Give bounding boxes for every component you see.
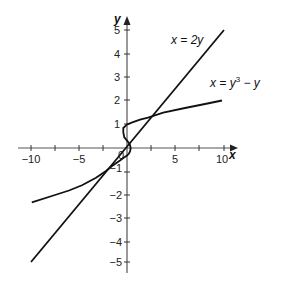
y-tick-label: 2 [114,94,120,106]
y-tick-label: −2 [109,189,122,201]
y-axis-label: y [113,12,122,26]
y-tick-label: −5 [109,256,122,268]
y-tick-label: 1 [114,118,120,130]
y-tick-label: 4 [114,48,120,60]
y-axis-arrow-icon [124,16,131,25]
x-tick-label: 10 [216,153,228,165]
y-axis: 5 4 3 2 1 −1 −2 −3 −4 −5 y 0 [109,12,130,273]
chart-svg: −10 −5 5 10 x 5 4 3 2 1 −1 −2 [0,0,283,283]
line-label: x = 2y [170,33,204,47]
x-tick-label: −5 [73,153,86,165]
y-tick-label: 3 [114,71,120,83]
x-tick-label: −10 [22,153,41,165]
curve-label: x = y3 − y [209,75,261,90]
x-axis-label: x [228,148,237,162]
chart-container: −10 −5 5 10 x 5 4 3 2 1 −1 −2 [0,0,283,283]
y-tick-label: −4 [109,236,122,248]
y-tick-label: −3 [109,212,122,224]
x-tick-label: 5 [172,153,178,165]
